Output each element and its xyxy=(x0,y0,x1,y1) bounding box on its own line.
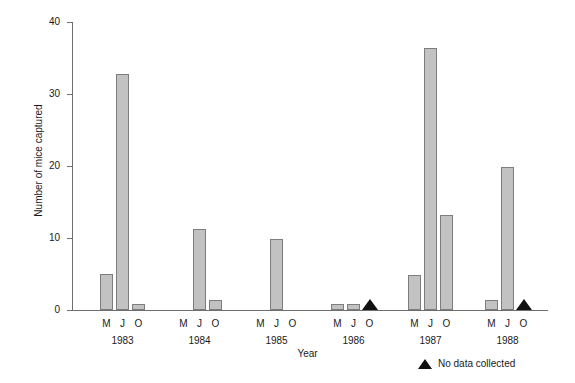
y-axis-tick-label: 0 xyxy=(14,305,60,315)
x-axis-year-label: 1984 xyxy=(170,335,230,346)
plot-area xyxy=(72,22,548,310)
y-axis-tick-label: 10 xyxy=(14,233,60,243)
bar xyxy=(270,239,283,310)
y-axis-tick-label: 30 xyxy=(14,89,60,99)
legend: No data collected xyxy=(418,358,515,369)
legend-label: No data collected xyxy=(438,358,515,369)
x-axis-month-label: O xyxy=(360,318,380,329)
bar xyxy=(408,275,421,310)
x-axis-month-label: O xyxy=(206,318,226,329)
x-axis-year-label: 1988 xyxy=(478,335,538,346)
no-data-triangle-icon xyxy=(418,359,432,369)
bar xyxy=(485,300,498,310)
bar xyxy=(193,229,206,310)
y-axis-tick-label: 20 xyxy=(14,161,60,171)
x-axis-year-label: 1983 xyxy=(93,335,153,346)
bar xyxy=(209,300,222,310)
x-axis-month-label: O xyxy=(129,318,149,329)
y-axis-tick-label: 40 xyxy=(14,17,60,27)
bar xyxy=(116,74,129,310)
no-data-triangle-icon xyxy=(516,299,532,310)
x-axis-month-label: O xyxy=(283,318,303,329)
x-axis-month-label: O xyxy=(514,318,534,329)
x-axis-month-label: O xyxy=(437,318,457,329)
no-data-triangle-icon xyxy=(362,299,378,310)
x-axis-year-label: 1985 xyxy=(247,335,307,346)
bar xyxy=(440,215,453,310)
bar xyxy=(501,167,514,310)
bar xyxy=(424,48,437,310)
bar-chart: Number of mice captured 403020100 MJO198… xyxy=(0,0,575,383)
x-axis-year-label: 1987 xyxy=(401,335,461,346)
x-axis-year-label: 1986 xyxy=(324,335,384,346)
bar xyxy=(100,274,113,310)
